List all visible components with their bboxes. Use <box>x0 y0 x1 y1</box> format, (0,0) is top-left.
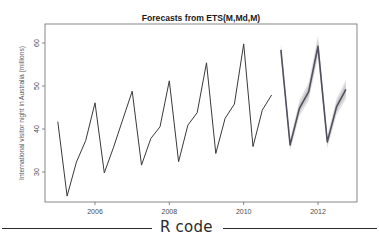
x-axis: 2006200820102012 <box>87 202 326 215</box>
x-tick-label: 2010 <box>236 208 252 215</box>
forecast-interval-95 <box>281 35 346 150</box>
y-tick-label: 50 <box>33 82 40 90</box>
chart-title: Forecasts from ETS(M,Md,M) <box>142 13 261 23</box>
y-tick-label: 40 <box>33 125 40 133</box>
x-tick-label: 2006 <box>87 208 103 215</box>
observed-series-line <box>58 44 272 196</box>
x-tick-label: 2012 <box>310 208 326 215</box>
section-divider-label: R code <box>160 218 213 236</box>
plot-area <box>58 35 346 196</box>
y-tick-label: 60 <box>33 39 40 47</box>
y-tick-label: 30 <box>33 168 40 176</box>
plot-frame <box>45 24 357 202</box>
x-tick-label: 2008 <box>162 208 178 215</box>
forecast-interval-80 <box>281 40 346 149</box>
y-axis: 30405060 <box>33 39 45 176</box>
forecast-chart: Forecasts from ETS(M,Md,M) 2006200820102… <box>0 0 379 243</box>
divider-line-left <box>2 228 152 229</box>
y-axis-title: International visitor night in Australia… <box>18 46 26 180</box>
divider-line-right <box>223 228 377 229</box>
